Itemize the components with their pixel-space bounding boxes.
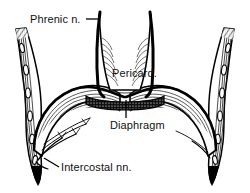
label-phrenic-nerve: Phrenic n.	[30, 13, 81, 25]
anatomical-figure: Phrenic n. Pericard. Diaphragm Intercost…	[0, 0, 250, 193]
label-diaphragm: Diaphragm	[110, 119, 165, 131]
label-pericardium: Pericard.	[112, 67, 157, 79]
label-intercostal-nerves: Intercostal nn.	[61, 161, 132, 173]
pericardium	[99, 14, 151, 93]
